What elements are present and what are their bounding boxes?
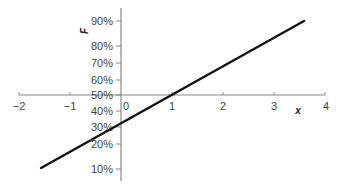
x-tick-label: 3 <box>271 100 277 112</box>
y-axis-title: F <box>79 27 90 34</box>
y-tick-label: 90% <box>91 15 113 27</box>
probability-plot: −2 −1 0 1 2 3 4 90% 80% 70% 60% 50% 40% … <box>0 0 341 189</box>
y-tick-label: 10% <box>91 163 113 175</box>
y-tick-label: 60% <box>91 74 113 86</box>
x-tick-label: −1 <box>64 100 77 112</box>
y-tick-label: 30% <box>91 121 113 133</box>
x-tick-label: 2 <box>220 100 226 112</box>
y-tick-label: 70% <box>91 57 113 69</box>
x-tick-label: 0 <box>123 100 129 112</box>
x-axis-title: x <box>294 105 301 116</box>
x-tick-label: −2 <box>13 100 26 112</box>
y-tick-label: 20% <box>91 138 113 150</box>
y-tick-label: 80% <box>91 40 113 52</box>
y-tick-label: 50% <box>91 89 113 101</box>
y-tick-label: 40% <box>91 105 113 117</box>
y-ticks <box>116 21 121 169</box>
x-tick-label: 4 <box>323 100 329 112</box>
x-tick-label: 1 <box>169 100 175 112</box>
